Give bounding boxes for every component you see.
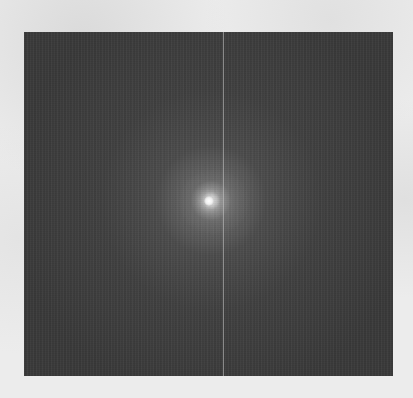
bleed-through-text xyxy=(0,380,413,398)
point-source-core xyxy=(204,196,214,206)
point-source-halo xyxy=(179,170,249,234)
vertical-streak-line xyxy=(223,32,224,376)
dark-noise-field xyxy=(24,32,393,376)
